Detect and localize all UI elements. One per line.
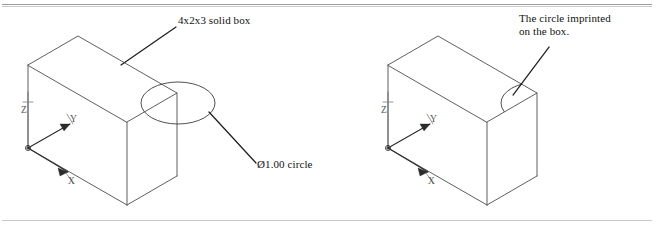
ucs-x-label-right: X [428, 176, 435, 186]
box2-bottom-right-edge [487, 176, 537, 205]
ucs-z-label-right: Z [381, 105, 387, 115]
ucs-y-label-left: Y [70, 114, 77, 124]
ucs-x-axis-left [28, 148, 68, 172]
box-top-face-edges [28, 36, 177, 122]
overlay-circle [141, 82, 215, 124]
left-view-group: Z Y X [21, 27, 256, 205]
ucs-x-axis-right [388, 148, 428, 172]
ucs-icon-right: Z Y X [381, 92, 437, 186]
ucs-icon-left: Z Y X [21, 92, 77, 186]
box2-top-face-edges [388, 36, 537, 122]
ucs-x-label-left: X [68, 176, 75, 186]
box-bottom-right-edge [127, 176, 177, 205]
right-view-group: Z Y X [381, 36, 575, 205]
figure-root: Z Y X [0, 0, 657, 236]
imprinted-circle-arc [501, 82, 575, 124]
ucs-y-arrowhead-left [60, 124, 70, 131]
leader-line-imprinted [513, 47, 549, 95]
ucs-y-label-right: Y [430, 114, 437, 124]
leader-line-circle-diameter [209, 112, 256, 163]
ucs-y-arrowhead-right [420, 124, 430, 131]
annotation-circle-diameter: Ø1.00 circle [257, 158, 313, 171]
ucs-z-label-left: Z [21, 105, 27, 115]
leader-line-solid-box [121, 27, 176, 65]
annotation-imprinted-circle: The circle imprinted on the box. [519, 12, 611, 38]
annotation-solid-box: 4x2x3 solid box [178, 14, 250, 27]
